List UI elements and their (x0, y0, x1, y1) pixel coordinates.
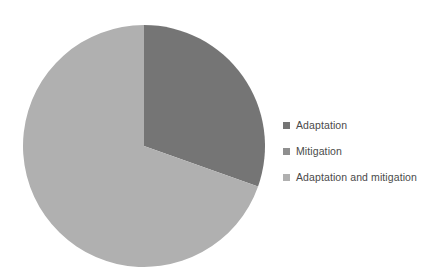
pie-plot-area (22, 24, 266, 268)
legend-item-mitigation[interactable]: Mitigation (283, 138, 435, 164)
legend-swatch-adaptation-and-mitigation (283, 174, 290, 181)
legend-item-adaptation-and-mitigation[interactable]: Adaptation and mitigation (283, 164, 435, 190)
legend-label: Mitigation (296, 145, 342, 157)
pie-slice-group (23, 25, 265, 267)
legend-swatch-adaptation (283, 122, 290, 129)
legend-item-adaptation[interactable]: Adaptation (283, 112, 435, 138)
chart-legend: AdaptationMitigationAdaptation and mitig… (283, 112, 435, 190)
pie-svg (22, 24, 266, 268)
pie-chart-figure: AdaptationMitigationAdaptation and mitig… (0, 0, 438, 272)
legend-swatch-mitigation (283, 148, 290, 155)
legend-label: Adaptation and mitigation (296, 171, 417, 183)
legend-label: Adaptation (296, 119, 347, 131)
